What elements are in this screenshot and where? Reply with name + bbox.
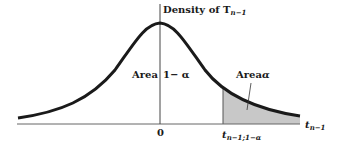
critical-value-label: tn−1;1−α bbox=[222, 129, 262, 142]
origin-label: 0 bbox=[157, 127, 164, 138]
area-left-label: Area bbox=[131, 69, 158, 80]
area-right-value: α bbox=[262, 69, 270, 80]
area-left-value: 1− α bbox=[163, 69, 190, 80]
t-distribution-diagram: Density of Tn−1 Area 1− α Area α 0 tn−1;… bbox=[0, 0, 341, 149]
y-axis-title: Density of Tn−1 bbox=[163, 4, 246, 17]
area-right-label: Area bbox=[235, 69, 262, 80]
x-axis-label: tn−1 bbox=[305, 119, 325, 132]
